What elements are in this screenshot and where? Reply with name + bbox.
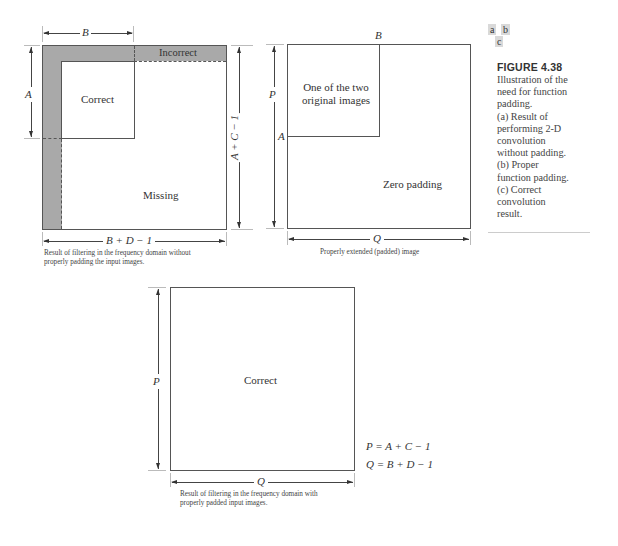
extension-line — [24, 138, 40, 139]
extension-line — [226, 232, 227, 246]
description-line: padding. — [497, 98, 615, 110]
arrow-up-icon — [29, 47, 33, 53]
description-line: function padding. — [497, 172, 615, 184]
description-line: Illustration of the — [497, 74, 615, 86]
description-line: performing 2-D — [497, 123, 615, 135]
caption-line: properly padded input images. — [180, 499, 318, 508]
missing-label: Missing — [143, 189, 178, 201]
label-line: original images — [298, 94, 374, 107]
description-line: (b) Proper — [497, 159, 615, 171]
extension-line — [148, 470, 166, 471]
original-image-label: One of the two original images — [298, 81, 374, 107]
dashed-boundary — [134, 46, 135, 61]
arrow-right-icon — [347, 480, 353, 484]
caption-divider — [488, 232, 590, 233]
label-line: One of the two — [298, 81, 374, 94]
equation-p: P = A + C − 1 — [366, 440, 430, 452]
extension-line — [24, 45, 40, 46]
correct-label: Correct — [81, 93, 114, 105]
panel-key-b: b — [501, 24, 510, 35]
dimension-label-q: Q — [254, 476, 268, 487]
description-line: result. — [497, 208, 615, 220]
description-line: convolution — [497, 135, 615, 147]
extension-line — [231, 45, 253, 46]
description-line: (a) Result of — [497, 111, 615, 123]
arrow-left-icon — [288, 237, 294, 241]
correct-label: Correct — [244, 374, 277, 386]
figure-title: FIGURE 4.38 — [497, 61, 562, 73]
arrow-up-icon — [237, 47, 241, 53]
arrow-down-icon — [29, 131, 33, 137]
corner-label-b: B — [373, 30, 384, 41]
extension-line — [231, 229, 253, 230]
arrow-down-icon — [237, 222, 241, 228]
caption-line: Result of filtering in the frequency dom… — [180, 490, 318, 499]
caption-line: properly padding the input images. — [44, 258, 191, 267]
dimension-label-b-d-1: B + D − 1 — [103, 235, 155, 246]
equation-q: Q = B + D − 1 — [366, 458, 433, 470]
extension-line — [266, 228, 284, 229]
dimension-label-b: B — [80, 27, 91, 38]
extension-line — [470, 231, 471, 245]
zero-padding-label: Zero padding — [383, 178, 442, 190]
dimension-label-a: A — [24, 87, 33, 102]
extension-line — [266, 44, 284, 45]
arrow-right-icon — [127, 31, 133, 35]
corner-label-a: A — [278, 131, 285, 142]
extension-line — [148, 287, 166, 288]
dimension-label-a-c-1: A + C − 1 — [229, 113, 240, 162]
caption-a: Result of filtering in the frequency dom… — [44, 249, 191, 267]
description-line: without padding. — [497, 147, 615, 159]
caption-line: Result of filtering in the frequency dom… — [44, 249, 191, 258]
description-line: (c) Correct — [497, 184, 615, 196]
figure-description: Illustration of the need for function pa… — [497, 74, 615, 220]
arrow-down-icon — [272, 221, 276, 227]
dimension-label-q: Q — [370, 233, 384, 244]
arrow-left-icon — [43, 239, 49, 243]
dimension-line-p — [274, 46, 275, 227]
arrow-up-icon — [156, 289, 160, 295]
panel-key-c: c — [495, 36, 503, 47]
arrow-down-icon — [156, 463, 160, 469]
caption-b: Properly extended (padded) image — [320, 248, 419, 257]
caption-c: Result of filtering in the frequency dom… — [180, 490, 318, 508]
dimension-label-p: P — [268, 87, 277, 102]
dashed-boundary — [43, 138, 62, 139]
arrow-left-icon — [43, 31, 49, 35]
description-line: convolution — [497, 196, 615, 208]
arrow-left-icon — [171, 480, 177, 484]
extension-line — [354, 473, 355, 487]
panel-key-a: a — [488, 24, 496, 35]
dashed-boundary — [134, 61, 226, 62]
incorrect-label: Incorrect — [159, 47, 197, 58]
dashed-boundary — [61, 139, 62, 229]
arrow-up-icon — [272, 46, 276, 52]
extension-line — [133, 26, 134, 42]
arrow-right-icon — [219, 239, 225, 243]
arrow-right-icon — [463, 237, 469, 241]
dimension-label-p: P — [152, 374, 161, 389]
description-line: need for function — [497, 86, 615, 98]
